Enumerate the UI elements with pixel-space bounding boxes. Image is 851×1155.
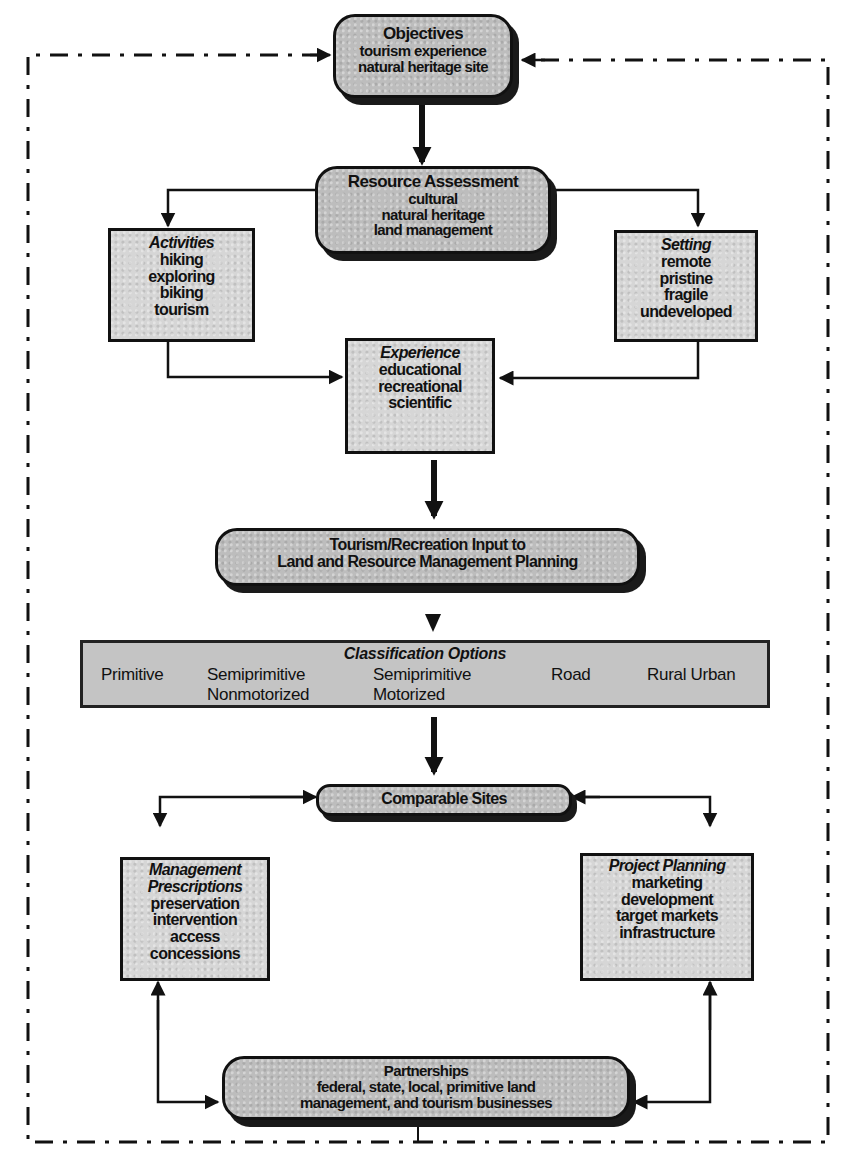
option-line1: Semiprimitive — [207, 665, 309, 685]
resource-assessment-line: natural heritage — [382, 207, 485, 223]
node-objectives: Objectives tourism experience natural he… — [333, 14, 513, 98]
option-line1: Semiprimitive — [373, 665, 471, 685]
partnerships-line: management, and tourism businesses — [300, 1095, 552, 1111]
option-line1: Primitive — [101, 665, 163, 685]
classification-option: Road — [551, 665, 590, 685]
setting-line: remote — [661, 254, 711, 271]
management-title: Prescriptions — [148, 879, 242, 896]
resource-assessment-line: land management — [374, 222, 493, 238]
node-activities: Activities hiking exploring biking touri… — [108, 228, 255, 342]
activities-line: tourism — [154, 302, 208, 319]
node-project-planning: Project Planning marketing development t… — [580, 853, 754, 981]
diagram-canvas: Objectives tourism experience natural he… — [0, 0, 851, 1155]
arrow-resource-to-setting — [550, 190, 698, 226]
objectives-title: Objectives — [383, 25, 463, 43]
experience-line: scientific — [388, 395, 451, 412]
node-classification-options: Classification Options Primitive Semipri… — [80, 640, 770, 708]
option-line2: Nonmotorized — [207, 685, 309, 705]
management-line: access — [170, 929, 220, 946]
arrow-input-to-classification — [425, 614, 441, 632]
setting-line: pristine — [660, 271, 713, 288]
project-planning-title: Project Planning — [609, 858, 726, 875]
setting-line: undeveloped — [640, 304, 732, 321]
node-comparable-sites: Comparable Sites — [316, 784, 572, 816]
activities-line: exploring — [148, 269, 215, 286]
activities-title: Activities — [149, 235, 214, 252]
arrow-project-to-partnerships — [634, 982, 710, 1102]
partnerships-title: Partnerships — [384, 1063, 469, 1079]
management-title: Management — [149, 862, 241, 879]
classification-option: Semiprimitive Motorized — [373, 665, 471, 704]
experience-line: recreational — [378, 379, 462, 396]
project-planning-line: infrastructure — [619, 925, 715, 942]
option-line1: Road — [551, 665, 590, 685]
arrow-management-to-partnerships — [158, 1000, 218, 1102]
management-line: preservation — [151, 896, 240, 913]
management-line: intervention — [153, 912, 237, 929]
tourism-input-line: Land and Resource Management Planning — [277, 554, 578, 571]
node-management-prescriptions: Management Prescriptions preservation in… — [120, 857, 270, 981]
experience-title: Experience — [380, 345, 459, 362]
activities-line: hiking — [160, 252, 204, 269]
project-planning-line: marketing — [631, 875, 702, 892]
arrow-resource-to-activities — [168, 190, 316, 226]
activities-line: biking — [160, 285, 204, 302]
node-setting: Setting remote pristine fragile undevelo… — [614, 230, 758, 342]
arrow-setting-to-experience — [500, 342, 698, 378]
classification-option: Primitive — [101, 665, 163, 685]
arrow-comparable-to-project — [575, 797, 710, 826]
objectives-line: natural heritage site — [358, 59, 488, 75]
option-line2: Motorized — [373, 685, 471, 705]
management-line: concessions — [150, 946, 240, 963]
project-planning-line: development — [621, 892, 713, 909]
arrow-activities-to-experience — [168, 342, 342, 377]
comparable-sites-title: Comparable Sites — [381, 791, 507, 808]
classification-title: Classification Options — [83, 645, 767, 663]
option-line1: Rural Urban — [647, 665, 735, 685]
classification-option: Rural Urban — [647, 665, 735, 685]
arrow-comparable-to-management — [160, 797, 314, 826]
setting-line: fragile — [664, 287, 708, 304]
partnerships-line: federal, state, local, primitive land — [317, 1079, 536, 1095]
node-resource-assessment: Resource Assessment cultural natural her… — [315, 166, 551, 254]
tourism-input-line: Tourism/Recreation Input to — [330, 537, 526, 554]
setting-title: Setting — [661, 237, 711, 254]
node-partnerships: Partnerships federal, state, local, prim… — [222, 1056, 630, 1120]
resource-assessment-line: cultural — [408, 191, 457, 207]
project-planning-line: target markets — [616, 908, 718, 925]
resource-assessment-title: Resource Assessment — [348, 173, 518, 191]
experience-line: educational — [379, 362, 461, 379]
objectives-line: tourism experience — [360, 43, 487, 59]
node-tourism-input: Tourism/Recreation Input to Land and Res… — [215, 528, 640, 586]
classification-option: Semiprimitive Nonmotorized — [207, 665, 309, 704]
node-experience: Experience educational recreational scie… — [345, 338, 495, 454]
